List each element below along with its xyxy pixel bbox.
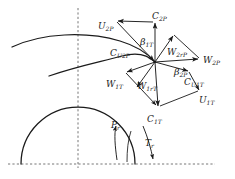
velocity-triangle-figure: U2P C2P CU2P β1T W2rP W2P β2P CU1T U1T W… xyxy=(0,0,235,179)
label-U2P: U2P xyxy=(98,16,113,32)
blade-profile-arcs xyxy=(12,35,155,164)
label-CU1T: CU1T xyxy=(184,72,204,88)
vector-U1T-close xyxy=(160,91,198,106)
label-W1T: W1T xyxy=(106,74,123,90)
inner-shroud-arc xyxy=(49,54,155,76)
vector-W1T xyxy=(127,62,155,72)
arrow-Pr xyxy=(115,126,117,160)
label-Pr: Pr xyxy=(111,115,120,131)
label-U1T: U1T xyxy=(199,90,214,106)
label-C1T: C1T xyxy=(147,109,162,125)
label-Tr: Tr xyxy=(145,133,154,149)
label-beta1T: β1T xyxy=(140,32,153,48)
vector-U2P xyxy=(118,21,153,22)
label-W2rP: W2rP xyxy=(167,42,187,58)
label-W1rT: W1rT xyxy=(137,76,157,92)
label-CU2P: CU2P xyxy=(110,43,130,59)
label-W2P: W2P xyxy=(203,50,220,66)
label-C2P: C2P xyxy=(152,6,167,22)
